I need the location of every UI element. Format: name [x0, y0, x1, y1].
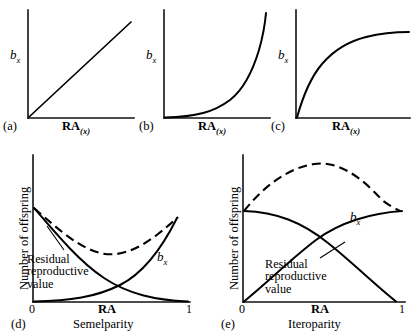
panel-b-x-axis-label: RA(x) [198, 120, 226, 135]
panel-c-y-axis-label: bx [278, 48, 288, 64]
panel-b-letter: (b) [139, 120, 154, 133]
figure-container: bx RA(x) (a) bx RA(x) (b) bx RA(x) (c) N… [0, 0, 419, 334]
panel-e-total-fitness-curve [244, 163, 400, 211]
panel-e-bx-label: bx [350, 210, 360, 226]
panel-c-x-axis-label: RA(x) [332, 120, 360, 135]
panel-c-plot [296, 10, 410, 118]
panel-d-letter: (d) [11, 318, 26, 331]
panel-c-bx-curve [297, 32, 409, 118]
panel-e-residual-reproductive-value-label: Residual reproductive value [265, 258, 327, 295]
panel-e-rrv-line-2: reproductive [265, 270, 327, 282]
panel-e-xtick-0: 0 [239, 303, 245, 315]
panel-b-bx-curve [165, 13, 266, 118]
panel-e-y-axis-label: Number of offspring [228, 187, 241, 290]
panel-d-residual-reproductive-value-label: Residual reproductive value [27, 253, 89, 290]
panel-d-rrv-line-3: value [27, 278, 89, 290]
panel-d-xtick-1: 1 [186, 303, 192, 315]
panel-d-xtick-0: 0 [29, 303, 35, 315]
panel-a-plot [28, 10, 134, 118]
panel-e-strategy-label: Iteroparity [288, 318, 341, 331]
panel-d-total-fitness-curve [34, 208, 178, 254]
panel-b-plot [164, 10, 270, 118]
panel-a-letter: (a) [3, 120, 17, 133]
panel-e-letter: (e) [221, 318, 235, 331]
panel-d-strategy-label: Semelparity [73, 318, 133, 331]
panel-e-xtick-1: 1 [399, 303, 405, 315]
panel-d-x-axis-label: RA [98, 303, 116, 316]
panel-b-y-axis-label: bx [146, 48, 156, 64]
panel-e-rrv-line-3: value [265, 283, 327, 295]
panel-a-y-axis-label: bx [10, 48, 20, 64]
panel-d-rrv-line-2: reproductive [27, 265, 89, 277]
panel-e-residual-leader-line [320, 242, 345, 258]
panel-a-bx-curve [29, 22, 131, 117]
panel-c-letter: (c) [271, 120, 285, 133]
panel-d-bx-label: bx [157, 250, 167, 266]
panel-e-x-axis-label: RA [311, 303, 329, 316]
panel-a-x-axis-label: RA(x) [62, 120, 90, 135]
